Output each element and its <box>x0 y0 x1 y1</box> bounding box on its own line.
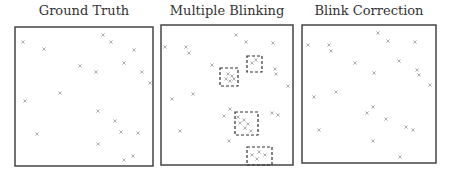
x-marker-icon <box>96 109 99 112</box>
x-marker-icon <box>306 43 309 46</box>
x-marker-icon <box>58 91 61 94</box>
x-marker-icon <box>232 77 235 80</box>
x-marker-icon <box>113 119 116 122</box>
x-marker-icon <box>398 155 401 158</box>
x-marker-icon <box>228 107 231 110</box>
x-marker-icon <box>365 111 368 114</box>
x-marker-icon <box>257 150 260 153</box>
x-marker-icon <box>122 158 125 161</box>
x-marker-icon <box>109 40 112 43</box>
x-marker-icon <box>119 130 122 133</box>
x-marker-icon <box>178 129 181 132</box>
x-marker-icon <box>263 153 266 156</box>
x-marker-icon <box>184 45 187 48</box>
x-marker-icon <box>96 142 99 145</box>
x-marker-icon <box>428 83 431 86</box>
x-marker-icon <box>376 31 379 34</box>
x-marker-icon <box>246 122 249 125</box>
diagram-canvas <box>0 0 451 173</box>
x-marker-icon <box>413 40 416 43</box>
x-marker-icon <box>254 58 257 61</box>
panel-blink-correction <box>302 25 436 163</box>
cluster-highlight-box <box>235 112 258 135</box>
x-marker-icon <box>329 49 332 52</box>
x-marker-icon <box>210 63 213 66</box>
x-marker-icon <box>334 90 337 93</box>
x-marker-icon <box>132 48 135 51</box>
x-marker-icon <box>222 114 225 117</box>
x-marker-icon <box>244 40 247 43</box>
x-marker-icon <box>274 72 277 75</box>
x-marker-icon <box>371 139 374 142</box>
x-marker-icon <box>404 125 407 128</box>
panel-frame <box>302 25 436 163</box>
panel-frame <box>15 27 153 166</box>
x-marker-icon <box>23 99 26 102</box>
x-marker-icon <box>163 45 166 48</box>
x-marker-icon <box>286 84 289 87</box>
x-marker-icon <box>411 128 414 131</box>
x-marker-icon <box>250 153 253 156</box>
x-marker-icon <box>242 118 245 121</box>
x-marker-icon <box>384 117 387 120</box>
x-marker-icon <box>230 74 233 77</box>
x-marker-icon <box>122 61 125 64</box>
x-marker-icon <box>42 47 45 50</box>
x-marker-icon <box>312 95 315 98</box>
x-marker-icon <box>276 113 279 116</box>
x-marker-icon <box>170 97 173 100</box>
x-marker-icon <box>236 115 239 118</box>
x-marker-icon <box>238 121 241 124</box>
cluster-highlight-box <box>220 68 238 86</box>
x-marker-icon <box>250 61 253 64</box>
panel-multiple-blinking <box>161 25 293 165</box>
x-marker-icon <box>21 40 24 43</box>
x-marker-icon <box>317 128 320 131</box>
x-marker-icon <box>249 129 252 132</box>
x-marker-icon <box>78 64 81 67</box>
x-marker-icon <box>131 154 134 157</box>
x-marker-icon <box>270 111 273 114</box>
x-marker-icon <box>417 73 420 76</box>
panel-ground-truth <box>15 27 153 166</box>
x-marker-icon <box>234 33 237 36</box>
x-marker-icon <box>101 33 104 36</box>
x-marker-icon <box>415 68 418 71</box>
x-marker-icon <box>228 79 231 82</box>
x-marker-icon <box>94 70 97 73</box>
x-marker-icon <box>397 59 400 62</box>
x-marker-icon <box>191 92 194 95</box>
x-marker-icon <box>243 126 246 129</box>
x-marker-icon <box>226 72 229 75</box>
x-marker-icon <box>136 131 139 134</box>
x-marker-icon <box>224 77 227 80</box>
x-marker-icon <box>327 43 330 46</box>
x-marker-icon <box>372 71 375 74</box>
x-marker-icon <box>371 105 374 108</box>
x-marker-icon <box>35 132 38 135</box>
x-marker-icon <box>271 41 274 44</box>
x-marker-icon <box>255 157 258 160</box>
x-marker-icon <box>386 39 389 42</box>
x-marker-icon <box>227 139 230 142</box>
panel-frame <box>161 25 293 165</box>
x-marker-icon <box>273 67 276 70</box>
x-marker-icon <box>140 70 143 73</box>
x-marker-icon <box>148 81 151 84</box>
x-marker-icon <box>353 61 356 64</box>
x-marker-icon <box>187 51 190 54</box>
